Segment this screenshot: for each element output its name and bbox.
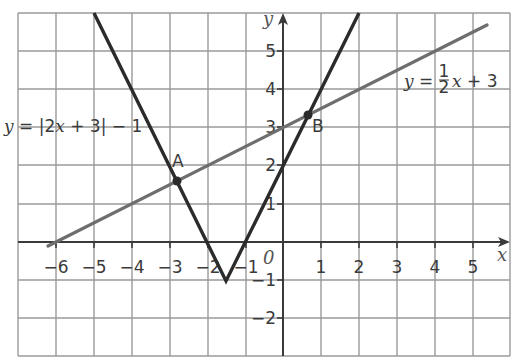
line-absolute-value [94, 13, 359, 281]
graph-figure: −6 −5 −4 −3 −2 −1 1 2 3 4 5 5 4 3 2 1 −1… [0, 0, 518, 362]
x-tick-label: 3 [392, 257, 403, 277]
svg-text:x + 3: x + 3 [452, 71, 497, 91]
svg-text:y =: y = [403, 71, 433, 91]
y-tick-label: −1 [251, 270, 276, 290]
x-tick-label: 4 [430, 257, 441, 277]
x-tick-label: −6 [43, 257, 68, 277]
svg-text:2: 2 [439, 77, 450, 97]
x-axis-label: x [497, 244, 507, 265]
y-axis-label: y [262, 8, 274, 29]
point-a-marker [173, 177, 182, 186]
y-tick-label: −2 [251, 308, 276, 328]
point-b-label: B [312, 116, 324, 136]
x-tick-label: 5 [468, 257, 479, 277]
y-tick-label: 4 [265, 79, 276, 99]
x-tick-label: 1 [316, 257, 327, 277]
x-tick-label: 2 [354, 257, 365, 277]
x-tick-label: −4 [119, 257, 144, 277]
point-a-label: A [172, 151, 184, 171]
equation-absolute-label: y = |2x + 3| − 1 [3, 116, 142, 136]
equation-linear-label: y = 1 2 x + 3 [403, 61, 497, 97]
y-tick-label: 2 [265, 155, 276, 175]
origin-label: 0 [263, 247, 274, 268]
x-tick-label: −5 [81, 257, 106, 277]
x-tick-label: −3 [157, 257, 182, 277]
grid [18, 13, 510, 356]
y-tick-label: 5 [265, 41, 276, 61]
